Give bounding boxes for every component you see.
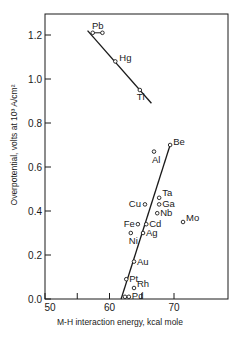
data-point-pb	[91, 31, 95, 35]
data-point-cu	[143, 203, 147, 207]
data-point-be	[168, 143, 172, 147]
point-label-rh: Rh	[137, 278, 149, 289]
y-tick-label: 1.0	[28, 74, 42, 85]
data-point-ga	[157, 203, 161, 207]
y-tick-label: 1.2	[28, 30, 42, 41]
data-point-au	[132, 260, 136, 264]
trend-lines	[88, 31, 171, 299]
data-point-fe	[136, 222, 140, 226]
point-label-ta: Ta	[162, 187, 173, 198]
data-point-nb	[155, 211, 159, 215]
point-label-cu: Cu	[129, 198, 141, 209]
data-point-pd	[127, 295, 131, 299]
data-point-pt	[124, 277, 128, 281]
data-point-pd	[123, 295, 127, 299]
y-tick-label: 0.6	[28, 162, 42, 173]
point-label-au: Au	[137, 256, 149, 267]
point-label-pb: Pb	[92, 20, 104, 31]
x-tick-label: 60	[104, 302, 116, 313]
data-point-pb	[101, 31, 105, 35]
x-axis-ticks: 506070	[44, 293, 180, 313]
y-axis-title: Overpotential, volts at 10³ A/cm²	[9, 84, 19, 205]
data-point-ag	[141, 231, 145, 235]
point-label-tl: Tl	[137, 91, 145, 102]
point-label-fe: Fe	[124, 218, 135, 229]
point-label-ag: Ag	[146, 227, 158, 238]
data-point-ta	[157, 196, 161, 200]
y-tick-label: 0.4	[28, 206, 42, 217]
y-axis-ticks: 0.00.20.40.60.81.01.2	[28, 30, 51, 305]
point-label-al: Al	[152, 154, 160, 165]
y-tick-label: 0.2	[28, 250, 42, 261]
point-label-hg: Hg	[119, 52, 131, 63]
point-label-be: Be	[173, 136, 185, 147]
y-tick-label: 0.8	[28, 118, 42, 129]
point-label-ni: Ni	[129, 235, 138, 246]
data-point-cd	[144, 222, 148, 226]
y-tick-label: 0.0	[28, 294, 42, 305]
data-points: PbHgTlBeAlTaGaCuNbMoFeCdAgNiAuPtRhPd	[91, 20, 199, 301]
chart-canvas: 506070 0.00.20.40.60.81.01.2 PbHgTlBeAlT…	[0, 0, 240, 337]
point-label-nb: Nb	[160, 207, 172, 218]
data-point-mo	[181, 220, 185, 224]
x-tick-label: 70	[168, 302, 180, 313]
x-axis-title: M-H interaction energy, kcal mole	[57, 317, 183, 327]
data-point-hg	[114, 60, 118, 64]
point-label-pd: Pd	[132, 290, 144, 301]
point-label-mo: Mo	[186, 212, 199, 223]
x-tick-label: 50	[44, 302, 56, 313]
